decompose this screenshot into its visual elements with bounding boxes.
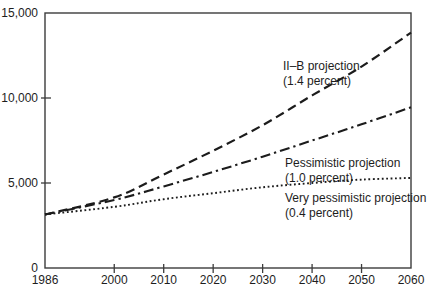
- x-tick-label: 2010: [150, 273, 177, 287]
- line-chart: 05,00010,00015,0001986200020102020203020…: [0, 0, 428, 295]
- y-tick-label: 5,000: [8, 176, 38, 190]
- x-tick-label: 2050: [348, 273, 375, 287]
- series-annotation-very-pessimistic-projection-line1: Very pessimistic projection: [285, 191, 426, 205]
- y-tick-label: 15,000: [1, 6, 38, 20]
- plot-border: [45, 13, 411, 268]
- series-annotation-very-pessimistic-projection-line2: (0.4 percent): [285, 206, 353, 220]
- x-tick-label: 1986: [32, 273, 59, 287]
- series-annotation-pessimistic-projection-line2: (1.0 percent): [285, 171, 353, 185]
- series-annotation-pessimistic-projection-line1: Pessimistic projection: [285, 156, 400, 170]
- x-tick-label: 2020: [200, 273, 227, 287]
- x-tick-label: 2040: [299, 273, 326, 287]
- y-tick-label: 10,000: [1, 91, 38, 105]
- x-tick-label: 2060: [398, 273, 425, 287]
- series-annotation-ii-b-projection-line1: II–B projection: [283, 59, 360, 73]
- x-tick-label: 2000: [101, 273, 128, 287]
- projection-chart-figure: 05,00010,00015,0001986200020102020203020…: [0, 0, 428, 295]
- x-tick-label: 2030: [249, 273, 276, 287]
- series-annotation-ii-b-projection-line2: (1.4 percent): [283, 74, 351, 88]
